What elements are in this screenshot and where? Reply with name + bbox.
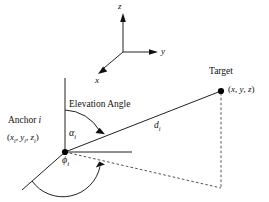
elevation-angle-symbol-label: αi [69,128,76,141]
anchor-label: Anchori [8,116,41,126]
anchor-label-index: i [39,115,42,125]
anchor-coord-close: ) [36,132,39,142]
target-coordinates-label: (x, y, z) [228,85,255,94]
azimuth-angle-symbol-label: ϕi [62,155,69,168]
z-axis-arrowhead [120,13,126,22]
azimuth-projection-line [65,152,221,188]
x-axis-label: x [95,76,99,85]
target-coord-close: ) [252,84,255,94]
x-axis-line [104,52,123,68]
azimuth-angle-symbol-sub: i [67,160,69,167]
distance-symbol-sub: i [159,125,161,132]
y-axis-arrowhead [149,49,158,55]
z-axis-label: z [118,2,122,11]
diagram-vector-layer [0,0,269,202]
coordinate-axes-group [98,13,158,74]
target-label: Target [209,67,233,77]
y-axis-label: y [161,47,165,56]
anchor-label-text: Anchor [8,115,37,125]
elevation-angle-symbol-sub: i [74,133,76,140]
azimuth-angle-arc [32,167,100,197]
anchor-x-direction-line [22,152,65,190]
elevation-angle-arrowhead [96,128,106,134]
figure-canvas: z y x Anchori (xi, yi, zi) Target (x, y,… [0,0,269,202]
target-point-dot [218,88,224,94]
x-axis-arrowhead [98,67,107,74]
distance-symbol-label: di [154,121,161,132]
elevation-angle-caption: Elevation Angle [69,100,130,110]
anchor-coordinates-label: (xi, yi, zi) [7,133,39,144]
